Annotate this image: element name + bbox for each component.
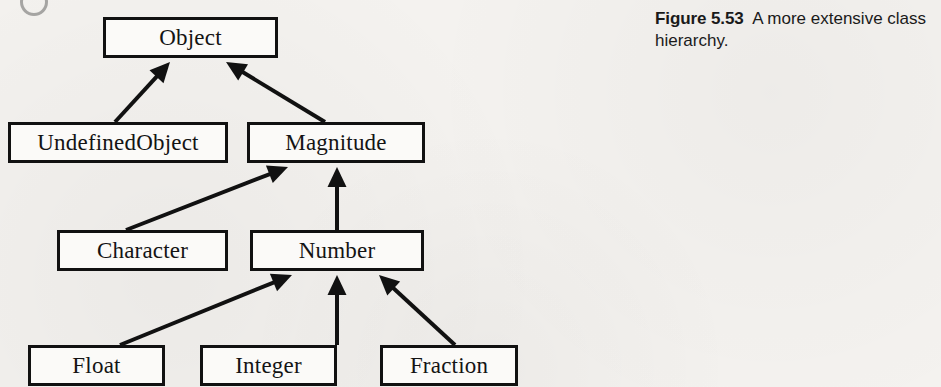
class-node-character: Character bbox=[57, 230, 228, 271]
class-node-magnitude: Magnitude bbox=[247, 122, 425, 163]
figure-caption: Figure 5.53 A more extensive class hiera… bbox=[655, 8, 933, 53]
arrow-shaft bbox=[115, 74, 159, 122]
inheritance-arrow-integer-to-number bbox=[328, 275, 347, 345]
class-node-label: Integer bbox=[235, 354, 302, 377]
class-node-float: Float bbox=[28, 345, 165, 386]
class-node-label: Fraction bbox=[410, 354, 488, 377]
class-node-label: UndefinedObject bbox=[37, 131, 198, 154]
class-node-label: Number bbox=[299, 239, 376, 262]
class-node-object: Object bbox=[103, 17, 278, 58]
inheritance-arrow-fraction-to-number bbox=[379, 275, 455, 345]
inheritance-arrow-float-to-number bbox=[120, 274, 292, 345]
class-node-number: Number bbox=[250, 230, 424, 271]
inheritance-arrow-character-to-magnitude bbox=[126, 165, 288, 230]
inheritance-arrow-number-to-magnitude bbox=[328, 167, 347, 230]
class-node-integer: Integer bbox=[200, 345, 337, 386]
arrow-shaft bbox=[126, 173, 273, 230]
arrow-shaft bbox=[240, 70, 325, 122]
class-node-label: Float bbox=[72, 354, 120, 377]
arrow-shaft bbox=[391, 286, 455, 345]
inheritance-arrow-magnitude-to-object bbox=[226, 62, 325, 122]
figure-caption-space bbox=[744, 9, 753, 28]
class-node-fraction: Fraction bbox=[380, 345, 518, 386]
class-node-label: Object bbox=[159, 26, 222, 49]
class-node-undefined-object: UndefinedObject bbox=[8, 122, 228, 163]
class-node-label: Character bbox=[97, 239, 188, 262]
figure-page: ObjectUndefinedObjectMagnitudeCharacterN… bbox=[0, 0, 941, 387]
figure-caption-label: Figure 5.53 bbox=[655, 9, 744, 28]
arrow-head bbox=[328, 275, 347, 295]
class-hierarchy-diagram bbox=[0, 0, 941, 387]
class-node-label: Magnitude bbox=[285, 131, 386, 154]
arrow-head bbox=[328, 167, 347, 187]
inheritance-arrow-undefined-object-to-object bbox=[115, 62, 170, 122]
arrow-shaft bbox=[120, 281, 277, 345]
